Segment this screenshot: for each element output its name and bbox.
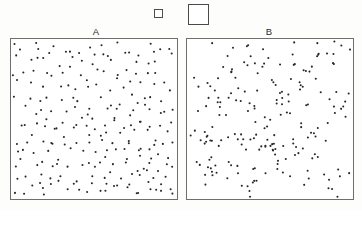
data-point [289, 112, 291, 114]
data-point [311, 157, 313, 159]
data-point [320, 91, 322, 93]
data-point [147, 129, 149, 131]
data-point [264, 127, 266, 129]
data-point [302, 148, 304, 150]
data-point [137, 170, 139, 172]
data-point [316, 42, 318, 44]
data-point [74, 106, 76, 108]
data-point [75, 124, 77, 126]
data-point [287, 93, 289, 95]
data-point [342, 105, 344, 107]
data-point [42, 187, 44, 189]
data-point [196, 161, 198, 163]
data-point [308, 177, 310, 179]
data-point [310, 132, 312, 134]
data-point [138, 149, 140, 151]
data-point [249, 139, 251, 141]
data-point [148, 148, 150, 150]
data-point [227, 55, 229, 57]
data-point [59, 175, 61, 177]
data-point [349, 49, 351, 51]
data-point [200, 139, 202, 141]
data-point [276, 102, 278, 104]
data-point [67, 84, 69, 86]
data-point [87, 113, 89, 115]
data-point [208, 159, 210, 161]
data-point [159, 125, 161, 127]
data-point [86, 79, 88, 81]
data-point [91, 182, 93, 184]
data-point [153, 144, 155, 146]
data-point [348, 172, 350, 174]
data-point [171, 166, 173, 168]
data-point [41, 161, 43, 163]
data-point [211, 126, 213, 128]
data-point [153, 51, 155, 53]
data-point [109, 171, 111, 173]
data-point [119, 132, 121, 134]
data-point [254, 121, 256, 123]
data-point [113, 185, 115, 187]
data-point [266, 126, 268, 128]
data-point [96, 68, 98, 70]
data-point [113, 117, 115, 119]
data-point [26, 142, 28, 144]
data-point [171, 193, 173, 195]
data-point [99, 190, 101, 192]
data-point [50, 110, 52, 112]
data-point [305, 70, 307, 72]
data-point [214, 164, 216, 166]
data-point [126, 158, 128, 160]
data-point [292, 142, 294, 144]
data-point [92, 63, 94, 65]
data-point [254, 167, 256, 169]
data-point [52, 45, 54, 47]
data-point [61, 99, 63, 101]
data-point [35, 42, 37, 44]
data-point [254, 107, 256, 109]
data-point [155, 140, 157, 142]
data-point [267, 57, 269, 59]
data-point [218, 145, 220, 147]
data-point [281, 91, 283, 93]
data-point [21, 125, 23, 127]
data-point [137, 55, 139, 57]
data-point [327, 122, 329, 124]
data-point [246, 64, 248, 66]
data-point [137, 192, 139, 194]
data-point [155, 189, 157, 191]
data-point [210, 167, 212, 169]
data-point [120, 177, 122, 179]
data-point [132, 109, 134, 111]
data-point [19, 48, 21, 50]
data-point [152, 177, 154, 179]
data-point [276, 99, 278, 101]
data-point [139, 155, 141, 157]
data-point [104, 190, 106, 192]
data-point [348, 93, 350, 95]
data-point [227, 136, 229, 138]
data-point [15, 54, 17, 56]
data-point [135, 73, 137, 75]
data-point [292, 53, 294, 55]
data-point [104, 125, 106, 127]
data-point [328, 179, 330, 181]
data-point [307, 104, 309, 106]
data-point [52, 165, 54, 167]
data-point [199, 164, 201, 166]
data-point [88, 162, 90, 164]
data-point [43, 194, 45, 196]
data-point [149, 96, 151, 98]
data-point [129, 114, 131, 116]
data-point [263, 63, 265, 65]
data-point [160, 183, 162, 185]
data-point [95, 83, 97, 85]
data-point [258, 149, 260, 151]
data-point [13, 96, 15, 98]
data-point [24, 105, 26, 107]
data-point [237, 172, 239, 174]
data-point [345, 116, 347, 118]
data-point [216, 172, 218, 174]
data-point [95, 151, 97, 153]
data-point [154, 72, 156, 74]
